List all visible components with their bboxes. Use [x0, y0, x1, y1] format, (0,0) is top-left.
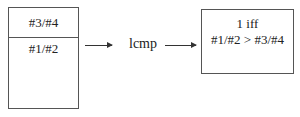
result-line-1: 1 iff [202, 16, 293, 32]
stack-bottom-cell: #1/#2 [9, 38, 78, 57]
operand-stack-box: #3/#4 #1/#2 [8, 7, 79, 109]
stack-top-cell: #3/#4 [9, 8, 78, 38]
result-box: 1 iff #1/#2 > #3/#4 [201, 9, 294, 74]
result-line-2: #1/#2 > #3/#4 [202, 32, 293, 48]
arrow-right-icon [85, 45, 112, 46]
arrow-right-icon [165, 45, 196, 46]
instruction-label: lcmp [129, 36, 157, 52]
